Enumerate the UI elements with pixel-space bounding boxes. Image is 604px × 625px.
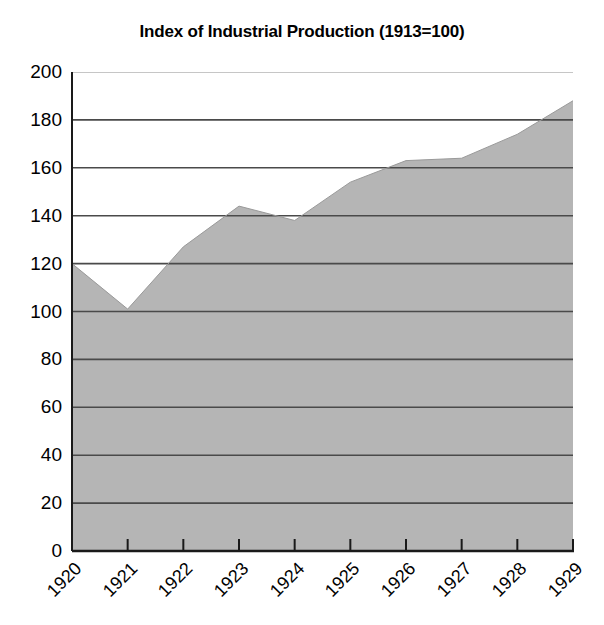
x-tick-label-1928: 1928 bbox=[481, 559, 530, 608]
x-axis-tick-labels: 1920192119221923192419251926192719281929 bbox=[0, 0, 604, 625]
x-tick-label-1920: 1920 bbox=[35, 559, 84, 608]
x-tick-label-1929: 1929 bbox=[536, 559, 585, 608]
x-tick-label-1922: 1922 bbox=[147, 559, 196, 608]
chart-figure: Index of Industrial Production (1913=100… bbox=[0, 0, 604, 625]
x-tick-label-1924: 1924 bbox=[258, 559, 307, 608]
x-tick-label-1925: 1925 bbox=[314, 559, 363, 608]
x-tick-label-1923: 1923 bbox=[202, 559, 251, 608]
x-tick-label-1921: 1921 bbox=[91, 559, 140, 608]
x-tick-label-1927: 1927 bbox=[425, 559, 474, 608]
x-tick-label-1926: 1926 bbox=[369, 559, 418, 608]
